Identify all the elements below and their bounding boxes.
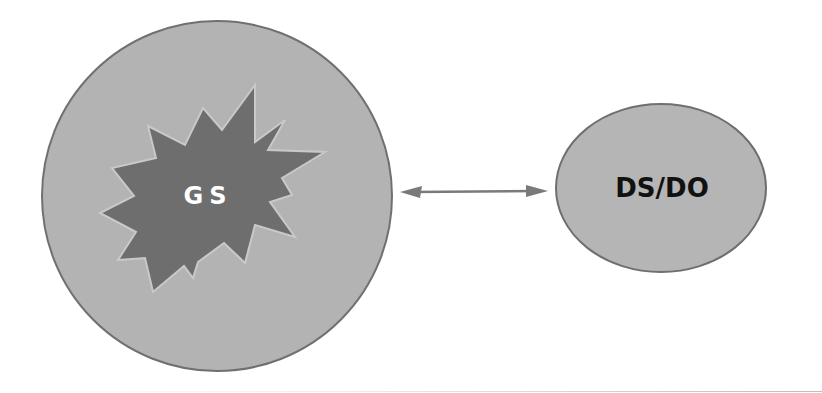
bottom-rule [0, 391, 822, 392]
diagram-canvas: GS DS/DO [0, 0, 822, 393]
connector-line [412, 191, 536, 192]
arrow-left-head-icon [400, 186, 422, 198]
arrow-right-head-icon [526, 185, 548, 197]
ds-do-label: DS/DO [615, 173, 709, 203]
gs-label: GS [184, 182, 233, 210]
